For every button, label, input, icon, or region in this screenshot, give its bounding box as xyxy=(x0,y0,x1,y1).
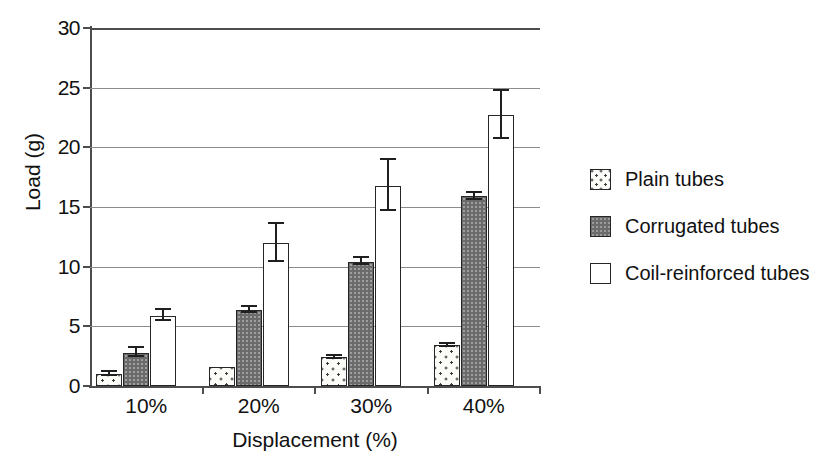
y-tick-mark xyxy=(83,27,90,29)
y-tick-mark xyxy=(83,87,90,89)
x-tick-label: 20% xyxy=(204,394,314,418)
error-bar-cap-upper xyxy=(128,346,144,348)
x-tick-mark xyxy=(427,386,429,394)
legend-label: Plain tubes xyxy=(625,168,724,191)
legend-swatch-plain xyxy=(590,169,611,190)
legend-item: Corrugated tubes xyxy=(590,207,829,245)
bar xyxy=(488,115,514,386)
bar-group xyxy=(428,28,541,386)
y-tick-mark xyxy=(83,206,90,208)
error-bar-stem xyxy=(275,224,277,262)
bar-group xyxy=(315,28,428,386)
x-tick-mark xyxy=(314,386,316,394)
y-tick-label: 0 xyxy=(36,375,80,396)
legend-swatch-corrugated xyxy=(590,216,611,237)
error-bar-cap-lower xyxy=(241,311,257,313)
legend-swatch-coil xyxy=(590,263,611,284)
x-tick-mark xyxy=(539,386,541,394)
error-bar-cap-lower xyxy=(466,198,482,200)
bar xyxy=(461,196,487,386)
error-bar-cap-lower xyxy=(101,374,117,376)
bar xyxy=(375,186,401,386)
y-tick-mark xyxy=(83,325,90,327)
x-tick-mark xyxy=(202,386,204,394)
bar-chart-figure: Load (g) 051015202530 10%20%30%40% Displ… xyxy=(0,0,829,466)
error-bar-cap-lower xyxy=(155,319,171,321)
bar xyxy=(348,262,374,386)
error-bar-cap-upper xyxy=(439,342,455,344)
error-bar-stem xyxy=(500,91,502,139)
bar xyxy=(321,357,347,386)
y-tick-mark xyxy=(83,385,90,387)
bar xyxy=(434,345,460,386)
error-bar-cap-upper xyxy=(353,256,369,258)
plot-area-wrapper: Load (g) 051015202530 10%20%30%40% Displ… xyxy=(0,0,600,466)
error-bar-cap-upper xyxy=(101,370,117,372)
error-bar-cap-upper xyxy=(268,222,284,224)
error-bar-cap-lower xyxy=(353,263,369,265)
x-tick-label: 30% xyxy=(316,394,426,418)
bar xyxy=(236,310,262,386)
error-bar-cap-upper xyxy=(155,308,171,310)
legend-label: Coil-reinforced tubes xyxy=(625,262,810,285)
y-tick-label: 20 xyxy=(36,136,80,157)
bar-group xyxy=(203,28,316,386)
x-axis-label: Displacement (%) xyxy=(90,428,540,452)
error-bar-cap-lower xyxy=(439,345,455,347)
y-tick-label: 25 xyxy=(36,77,80,98)
error-bar-cap-upper xyxy=(493,89,509,91)
y-tick-label: 5 xyxy=(36,315,80,336)
error-bar-cap-upper xyxy=(466,191,482,193)
error-bar-cap-lower xyxy=(128,355,144,357)
bar xyxy=(263,243,289,386)
error-bar-cap-upper xyxy=(326,354,342,356)
plot-axes-area xyxy=(90,28,540,386)
x-tick-label: 40% xyxy=(429,394,539,418)
bar-group xyxy=(90,28,203,386)
bar xyxy=(96,374,122,386)
bar xyxy=(150,316,176,386)
error-bar-cap-lower xyxy=(380,209,396,211)
y-tick-label: 15 xyxy=(36,196,80,217)
bar xyxy=(209,367,235,386)
error-bar-cap-lower xyxy=(493,137,509,139)
y-tick-label: 30 xyxy=(36,17,80,38)
chart-legend: Plain tubesCorrugated tubesCoil-reinforc… xyxy=(590,160,829,301)
legend-item: Coil-reinforced tubes xyxy=(590,254,829,292)
x-tick-label: 10% xyxy=(91,394,201,418)
error-bar-cap-upper xyxy=(380,158,396,160)
y-axis-tick-labels: 051015202530 xyxy=(36,0,80,466)
y-tick-mark xyxy=(83,266,90,268)
error-bar-stem xyxy=(387,160,389,210)
y-tick-label: 10 xyxy=(36,256,80,277)
error-bar-cap-lower xyxy=(268,260,284,262)
legend-item: Plain tubes xyxy=(590,160,829,198)
legend-label: Corrugated tubes xyxy=(625,215,780,238)
bar xyxy=(123,353,149,386)
error-bar-cap-lower xyxy=(326,357,342,359)
y-tick-mark xyxy=(83,146,90,148)
error-bar-cap-upper xyxy=(241,305,257,307)
